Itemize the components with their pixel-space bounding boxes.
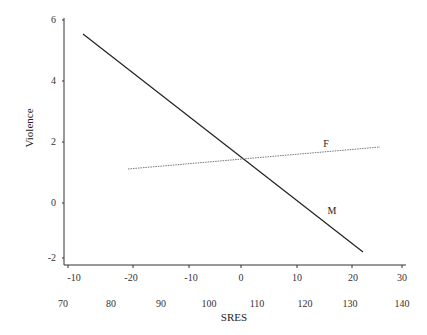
series-f-line xyxy=(128,147,380,169)
x-secondary-label: 90 xyxy=(156,298,166,309)
x-tick-label: 0 xyxy=(239,272,244,283)
y-tick-label: -2 xyxy=(48,252,56,263)
y-ticks: 6 4 2 0 -2 xyxy=(48,14,64,263)
series-m-label: M xyxy=(328,205,337,216)
y-tick-label: 2 xyxy=(51,136,56,147)
x-secondary-label: 70 xyxy=(58,298,68,309)
y-tick-label: 0 xyxy=(51,197,56,208)
x-secondary-label: 110 xyxy=(250,298,265,309)
x-tick-label: 20 xyxy=(348,272,358,283)
series-f-label: F xyxy=(323,138,329,149)
x-secondary-label: 100 xyxy=(202,298,217,309)
x-secondary-labels: 70 80 90 100 110 120 130 140 xyxy=(58,298,410,309)
x-axis-title: SRES xyxy=(221,311,247,323)
x-tick-label: 10 xyxy=(292,272,302,283)
x-tick-label: -20 xyxy=(124,272,137,283)
x-secondary-label: 80 xyxy=(106,298,116,309)
x-secondary-label: 130 xyxy=(343,298,358,309)
y-tick-label: 4 xyxy=(51,75,56,86)
x-secondary-label: 120 xyxy=(298,298,313,309)
x-tick-label: -10 xyxy=(184,272,197,283)
chart: 6 4 2 0 -2 -10 -20 -10 0 10 20 30 70 80 … xyxy=(0,0,427,335)
x-secondary-label: 140 xyxy=(395,298,410,309)
y-axis-title: Violence xyxy=(23,108,35,147)
x-tick-label: 30 xyxy=(397,272,407,283)
series-m-line xyxy=(83,34,363,252)
x-tick-label: -10 xyxy=(67,272,80,283)
y-tick-label: 6 xyxy=(51,14,56,25)
x-ticks: -10 -20 -10 0 10 20 30 xyxy=(67,265,407,283)
